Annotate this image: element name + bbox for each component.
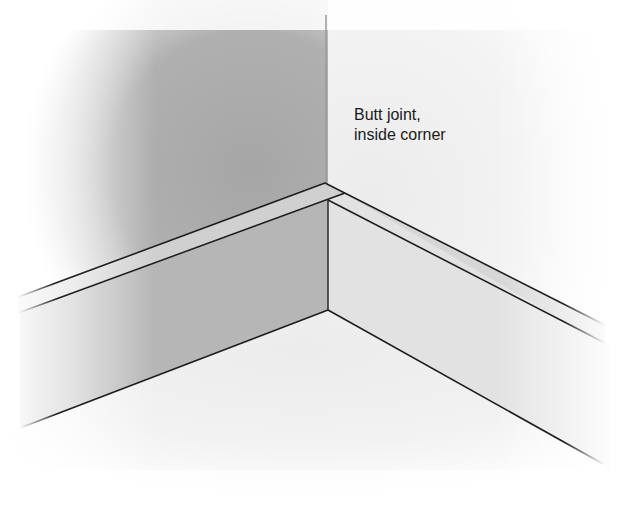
edge-fade-top bbox=[0, 0, 620, 30]
label-line-1: Butt joint, bbox=[354, 105, 446, 125]
edge-fade-right bbox=[0, 0, 620, 506]
butt-joint-illustration bbox=[0, 0, 620, 506]
diagram-canvas: Butt joint, inside corner bbox=[0, 0, 620, 506]
edge-fade-bottom bbox=[0, 470, 620, 506]
label-line-2: inside corner bbox=[354, 125, 446, 145]
diagram-label: Butt joint, inside corner bbox=[354, 105, 446, 145]
